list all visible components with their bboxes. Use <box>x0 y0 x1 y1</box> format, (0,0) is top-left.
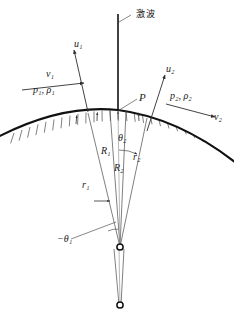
lower-radial-right <box>121 249 124 305</box>
theta1-label: −θ₁ <box>57 234 72 244</box>
p2-rho2-label: p₂, ρ₂ <box>170 91 192 101</box>
lower-radial-mid <box>119 249 120 305</box>
u2-label: u₂ <box>166 64 174 74</box>
theta2-label: θ₂ <box>118 133 126 143</box>
R1-label: R₁ <box>101 146 111 156</box>
r1-label: r₁ <box>82 180 89 190</box>
R2-label: R₂ <box>114 163 124 173</box>
v2-label: v₂ <box>214 112 222 122</box>
u1-vector-arrow <box>74 50 88 112</box>
body-normal-ticks <box>76 112 139 125</box>
u1-label: u₁ <box>74 39 82 49</box>
u2-vector-arrow <box>147 75 165 131</box>
p1-rho1-label: p₁, ρ₁ <box>33 85 55 95</box>
center-node-lower <box>117 302 123 308</box>
body-surface-curve <box>0 109 234 166</box>
theta1-arc <box>108 229 118 231</box>
v2-vector-arrow <box>166 104 215 117</box>
point-p-label: P <box>139 92 146 103</box>
lower-radial-left <box>114 249 119 305</box>
v1-label: v₁ <box>46 69 54 79</box>
center-node-upper <box>117 244 123 250</box>
point-p-leader <box>119 99 138 111</box>
shock-wave-label: 激波 <box>136 10 155 19</box>
r2-label: r₂ <box>133 152 140 162</box>
shock-label-leader <box>119 15 131 22</box>
